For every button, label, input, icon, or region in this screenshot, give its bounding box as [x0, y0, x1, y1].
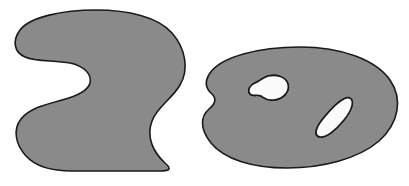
figure-canvas: Two shaded planar regions — [0, 0, 409, 186]
